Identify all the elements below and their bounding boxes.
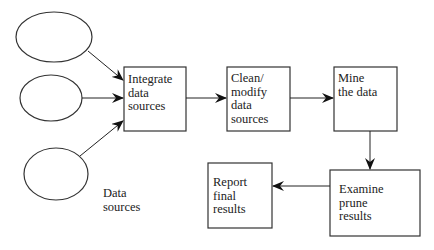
arrow-source1-to-integrate bbox=[88, 51, 123, 80]
data-source-ellipse-2 bbox=[20, 75, 82, 121]
data-sources-label: Data sources bbox=[103, 187, 141, 214]
data-source-ellipse-3 bbox=[24, 148, 88, 200]
data-source-ellipse-1 bbox=[16, 12, 92, 62]
report-label: Report final results bbox=[213, 176, 247, 217]
arrow-source3-to-integrate bbox=[80, 121, 123, 156]
clean-label: Clean/ modify data sources bbox=[231, 72, 269, 126]
mine-label: Mine the data bbox=[338, 72, 377, 99]
examine-label: Examine prune results bbox=[339, 183, 383, 224]
integrate-label: Integrate data sources bbox=[128, 73, 172, 114]
